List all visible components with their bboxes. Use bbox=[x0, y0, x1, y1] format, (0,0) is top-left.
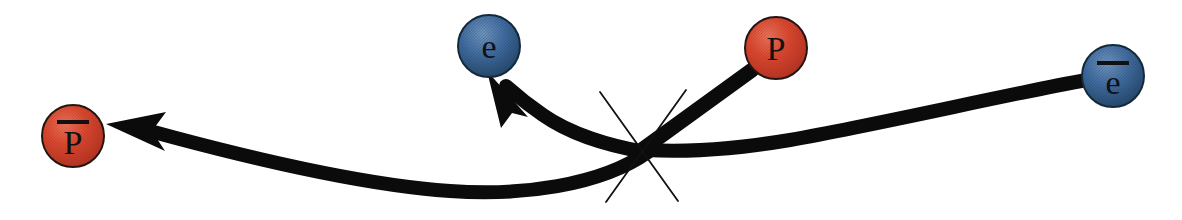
particle-diagram-canvas: P e P e bbox=[0, 0, 1182, 220]
particle-positron[interactable]: e bbox=[1082, 45, 1144, 107]
particle-electron[interactable]: e bbox=[458, 15, 520, 77]
proton-in-track bbox=[643, 70, 752, 149]
proton-label: P bbox=[767, 30, 786, 67]
electron-out-track bbox=[487, 71, 645, 152]
antiproton-label: P bbox=[64, 124, 83, 161]
particle-interaction-svg: P e P e bbox=[0, 0, 1182, 220]
positron-label: e bbox=[1105, 64, 1120, 101]
particle-proton[interactable]: P bbox=[745, 17, 807, 79]
particle-antiproton[interactable]: P bbox=[42, 105, 104, 167]
electron-label: e bbox=[481, 28, 496, 65]
